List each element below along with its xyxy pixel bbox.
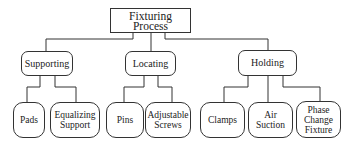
node-label: Adjustable Screws <box>147 110 188 130</box>
node-label: Fixturing Process <box>111 11 190 31</box>
node-label: Locating <box>133 59 169 69</box>
node-label: Air Suction <box>256 110 285 130</box>
node-label: Holding <box>251 58 284 68</box>
leaf-adjustable-screws: Adjustable Screws <box>145 102 191 138</box>
leaf-pins: Pins <box>106 102 144 138</box>
node-supporting: Supporting <box>21 51 73 76</box>
node-label: Phase Change Fixture <box>304 105 333 135</box>
leaf-pads: Pads <box>13 102 45 138</box>
node-label: Supporting <box>25 59 69 69</box>
node-label: Clamps <box>208 115 237 125</box>
leaf-phase-change-fixture: Phase Change Fixture <box>296 101 341 138</box>
leaf-equalizing-support: Equalizing Support <box>50 102 100 138</box>
node-label: Pads <box>20 115 38 125</box>
root-node-fixturing-process: Fixturing Process <box>110 8 191 33</box>
node-holding: Holding <box>238 50 297 76</box>
node-locating: Locating <box>125 51 176 76</box>
leaf-clamps: Clamps <box>200 102 245 138</box>
node-label: Pins <box>117 115 133 125</box>
node-label: Equalizing Support <box>54 110 95 130</box>
leaf-air-suction: Air Suction <box>248 102 293 138</box>
